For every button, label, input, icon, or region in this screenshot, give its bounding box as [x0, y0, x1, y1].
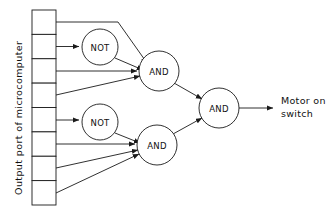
- and-gate-2-label: AND: [147, 141, 167, 151]
- gate-and1: AND: [139, 51, 179, 91]
- wire-and1-to-and3: [174, 83, 202, 99]
- output-port-label: Output port of microcomputer: [13, 41, 24, 195]
- motor-on-switch-label-line2: switch: [281, 108, 313, 119]
- register-cell-2: [32, 34, 56, 58]
- wire-cell4-to-and1: [56, 76, 140, 95]
- and-gate-3-label: AND: [209, 104, 229, 114]
- wire-cell8-to-and2: [56, 154, 139, 193]
- register-cell-8: [32, 181, 56, 205]
- not-gate-1-label: NOT: [91, 43, 110, 53]
- register-cell-1: [32, 10, 56, 34]
- register-cell-5: [32, 108, 56, 132]
- wire-and2-to-and3: [173, 118, 202, 134]
- wire-not2-to-and2: [115, 133, 140, 143]
- diagram-canvas: Output port of microcomputer: [0, 0, 334, 217]
- output-port-register: [32, 10, 56, 205]
- gate-not1: NOT: [82, 29, 118, 65]
- motor-on-switch-label-line1: Motor on: [281, 95, 326, 106]
- gate-and3: AND: [199, 88, 239, 128]
- register-cell-3: [32, 59, 56, 83]
- register-cell-6: [32, 132, 56, 156]
- register-cell-4: [32, 83, 56, 107]
- not-gate-2-label: NOT: [91, 118, 110, 128]
- register-cell-7: [32, 156, 56, 180]
- and-gate-1-label: AND: [149, 67, 169, 77]
- logic-diagram: Output port of microcomputer: [0, 0, 334, 217]
- gate-not2: NOT: [82, 104, 118, 140]
- gate-and2: AND: [137, 125, 177, 165]
- wire-cell7-to-and2: [56, 150, 138, 168]
